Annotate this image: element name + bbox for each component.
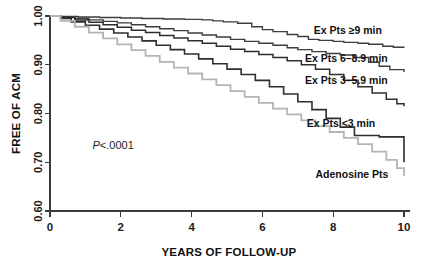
- y-tick-label: 1.00: [32, 5, 44, 26]
- y-tick-label: 0.90: [32, 54, 44, 75]
- x-tick-label: 8: [330, 221, 337, 233]
- survival-plot: 1.000.900.800.700.600246810 Ex Pts ≥9 mi…: [0, 0, 446, 270]
- series-label: Ex Pts 3–5.9 min: [305, 74, 388, 86]
- survival-curves: [50, 16, 404, 176]
- y-tick-label: 0.80: [32, 103, 44, 124]
- series-label: Ex Pts ≥9 min: [314, 24, 382, 36]
- x-tick-label: 2: [118, 221, 124, 233]
- y-axis-title: FREE OF ACM: [10, 73, 22, 154]
- x-axis-title: YEARS OF FOLLOW-UP: [162, 246, 297, 258]
- x-tick-label: 10: [398, 221, 411, 233]
- x-tick-label: 4: [188, 221, 195, 233]
- series-labels: Ex Pts ≥9 minEx Pts 6–8.9 minEx Pts 3–5.…: [305, 24, 389, 180]
- y-tick-label: 0.70: [32, 152, 44, 173]
- series-label: Ex Pts <3 min: [307, 117, 376, 129]
- x-tick-label: 0: [47, 221, 53, 233]
- series-label: Ex Pts 6–8.9 min: [305, 52, 388, 64]
- p-value-annotation: P<.0001: [92, 139, 133, 151]
- y-tick-label: 0.60: [32, 200, 44, 221]
- survival-curve: [50, 16, 404, 176]
- annotations: P<.0001: [92, 139, 133, 151]
- x-tick-label: 6: [259, 221, 265, 233]
- kaplan-meier-figure: 1.000.900.800.700.600246810 Ex Pts ≥9 mi…: [0, 0, 446, 270]
- series-label: Adenosine Pts: [316, 168, 389, 180]
